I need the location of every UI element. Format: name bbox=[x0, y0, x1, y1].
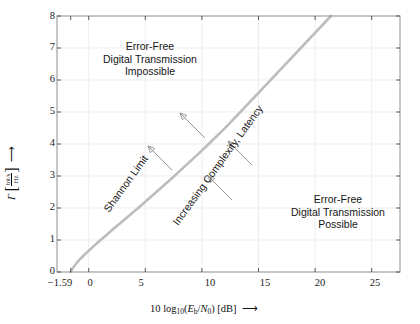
y-axis-title-units-denominator: Hz bbox=[11, 173, 20, 186]
region-label-impossible: Error-Free Digital Transmission Impossib… bbox=[85, 40, 215, 78]
x-axis-title-log-base: 10 bbox=[177, 307, 184, 316]
x-tick-label: 10 bbox=[188, 277, 232, 288]
x-axis-title: 10 log10(Eb/N0) [dB] ⟶ bbox=[150, 302, 258, 316]
region-label-possible: Error-Free Digital Transmission Possible bbox=[277, 193, 399, 231]
x-axis-title-paren-close: ) bbox=[211, 303, 215, 314]
y-axis-title-units-fraction: bit/sHz bbox=[4, 173, 20, 186]
y-axis-title-symbol: Γ bbox=[6, 194, 17, 200]
x-tick-label: 5 bbox=[119, 277, 163, 288]
y-tick-label: 4 bbox=[33, 137, 55, 148]
x-axis-title-prefix: 10 log bbox=[150, 303, 177, 314]
region-possible-line-2: Digital Transmission bbox=[277, 206, 399, 219]
x-axis-title-n0: N bbox=[200, 303, 207, 314]
y-tick-label: 5 bbox=[33, 105, 55, 116]
y-tick-label: 0 bbox=[33, 265, 55, 276]
y-tick-label: 7 bbox=[33, 41, 55, 52]
x-tick-label: 20 bbox=[298, 277, 342, 288]
y-axis-title-arrow-icon: ⟶ bbox=[6, 146, 17, 162]
region-impossible-line-2: Digital Transmission bbox=[85, 53, 215, 66]
y-tick-label: 6 bbox=[33, 73, 55, 84]
x-tick-label: 0 bbox=[68, 277, 112, 288]
y-tick-label: 3 bbox=[33, 169, 55, 180]
y-axis-title: Γ [bit/sHz] ⟶ bbox=[4, 146, 20, 200]
y-tick-label: 2 bbox=[33, 201, 55, 212]
y-axis-title-units-numerator: bit/s bbox=[4, 173, 12, 186]
region-possible-line-1: Error-Free bbox=[277, 193, 399, 206]
y-axis-title-bracket-open: [ bbox=[3, 186, 20, 191]
x-tick-label: 25 bbox=[353, 277, 397, 288]
figure-canvas: 8 7 6 5 4 3 2 1 0 −1.59 0 5 10 15 20 25 … bbox=[0, 0, 420, 324]
region-possible-line-3: Possible bbox=[277, 218, 399, 231]
x-tick-label: 15 bbox=[243, 277, 287, 288]
region-impossible-line-1: Error-Free bbox=[85, 40, 215, 53]
x-axis-title-arrow-icon: ⟶ bbox=[242, 303, 258, 314]
region-impossible-line-3: Impossible bbox=[85, 65, 215, 78]
x-axis-title-units: [dB] bbox=[217, 303, 236, 314]
y-tick-label: 8 bbox=[33, 10, 55, 21]
y-tick-label: 1 bbox=[33, 233, 55, 244]
